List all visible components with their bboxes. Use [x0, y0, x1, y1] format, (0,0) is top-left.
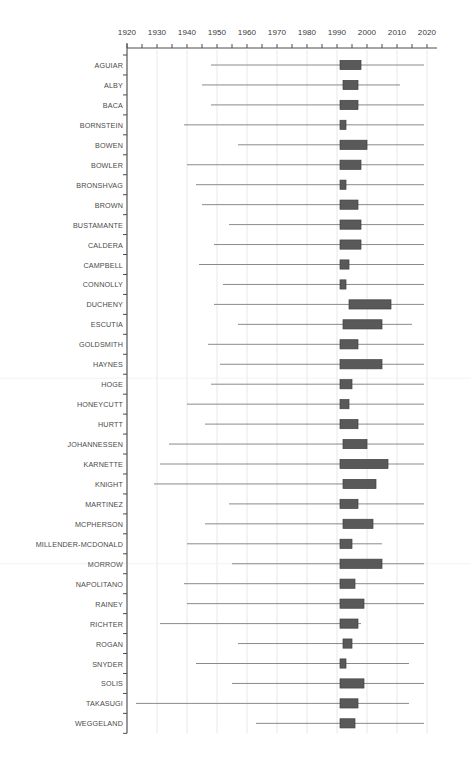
x-axis-tick-label-1950: 1950 [201, 28, 233, 37]
x-axis-tick-label-1930: 1930 [141, 28, 173, 37]
category-label-johannessen: JOHANNESSEN [2, 440, 123, 449]
box-rect[interactable] [340, 539, 352, 548]
box-rect[interactable] [340, 120, 346, 129]
x-axis-tick-label-1960: 1960 [231, 28, 263, 37]
category-label-bowen: BOWEN [2, 141, 123, 150]
box-rect[interactable] [340, 360, 382, 369]
box-rows-group [123, 55, 424, 733]
box-rect[interactable] [340, 280, 346, 289]
box-rect[interactable] [340, 60, 361, 69]
category-label-knight: KNIGHT [2, 480, 123, 489]
box-rect[interactable] [340, 180, 346, 189]
category-label-haynes: HAYNES [2, 360, 123, 369]
box-rect[interactable] [343, 439, 367, 448]
x-axis-tick-label-1970: 1970 [261, 28, 293, 37]
box-rect[interactable] [340, 579, 355, 588]
box-rect[interactable] [343, 479, 376, 488]
box-rect[interactable] [340, 420, 358, 429]
category-label-solis: SOLIS [2, 679, 123, 688]
category-label-escutia: ESCUTIA [2, 320, 123, 329]
category-label-caldera: CALDERA [2, 241, 123, 250]
box-rect[interactable] [340, 679, 364, 688]
x-axis-tick-label-1980: 1980 [291, 28, 323, 37]
box-rect[interactable] [340, 400, 349, 409]
x-axis-tick-label-1920: 1920 [111, 28, 143, 37]
category-label-weggeland: WEGGELAND [2, 719, 123, 728]
category-label-aguiar: AGUIAR [2, 61, 123, 70]
category-label-brown: BROWN [2, 201, 123, 210]
box-rect[interactable] [349, 300, 391, 309]
category-label-campbell: CAMPBELL [2, 261, 123, 270]
box-rect[interactable] [340, 499, 358, 508]
box-rect[interactable] [340, 340, 358, 349]
box-rect[interactable] [340, 160, 361, 169]
box-rect[interactable] [340, 699, 358, 708]
box-rect[interactable] [340, 659, 346, 668]
category-label-millender-mcdonald: MILLENDER-MCDONALD [2, 540, 123, 549]
x-axis-tick-label-2020: 2020 [411, 28, 443, 37]
box-rect[interactable] [340, 619, 358, 628]
box-rect[interactable] [343, 320, 382, 329]
category-label-rainey: RAINEY [2, 600, 123, 609]
x-axis-group [127, 43, 437, 733]
x-axis-tick-label-1990: 1990 [321, 28, 353, 37]
category-label-bronshvag: BRONSHVAG [2, 181, 123, 190]
category-label-martinez: MARTINEZ [2, 500, 123, 509]
box-rect[interactable] [340, 260, 349, 269]
figure-canvas: 1920193019401950196019701980199020002010… [0, 0, 471, 763]
category-label-alby: ALBY [2, 81, 123, 90]
box-rect[interactable] [340, 140, 367, 149]
category-label-ducheny: DUCHENY [2, 300, 123, 309]
box-rect[interactable] [340, 200, 358, 209]
box-rect[interactable] [340, 240, 361, 249]
category-label-bowler: BOWLER [2, 161, 123, 170]
x-axis-tick-label-2000: 2000 [351, 28, 383, 37]
category-label-napolitano: NAPOLITANO [2, 580, 123, 589]
gridlines-group [127, 50, 427, 733]
box-rect[interactable] [340, 559, 382, 568]
category-label-rogan: ROGAN [2, 640, 123, 649]
box-rect[interactable] [340, 220, 361, 229]
x-axis-tick-label-2010: 2010 [381, 28, 413, 37]
box-rect[interactable] [340, 719, 355, 728]
box-rect[interactable] [340, 459, 388, 468]
box-rect[interactable] [340, 380, 352, 389]
box-rect[interactable] [343, 639, 352, 648]
category-label-richter: RICHTER [2, 620, 123, 629]
category-label-bustamante: BUSTAMANTE [2, 221, 123, 230]
category-label-goldsmith: GOLDSMITH [2, 340, 123, 349]
box-rect[interactable] [343, 80, 358, 89]
category-label-baca: BACA [2, 101, 123, 110]
category-label-hoge: HOGE [2, 380, 123, 389]
box-rect[interactable] [343, 519, 373, 528]
category-label-honeycutt: HONEYCUTT [2, 400, 123, 409]
category-label-morrow: MORROW [2, 560, 123, 569]
box-rect[interactable] [340, 599, 364, 608]
category-label-mcpherson: MCPHERSON [2, 520, 123, 529]
category-label-takasugi: TAKASUGI [2, 699, 123, 708]
box-rect[interactable] [340, 100, 358, 109]
x-axis-tick-label-1940: 1940 [171, 28, 203, 37]
category-label-bornstein: BORNSTEIN [2, 121, 123, 130]
category-label-snyder: SNYDER [2, 660, 123, 669]
category-label-connolly: CONNOLLY [2, 280, 123, 289]
category-label-karnette: KARNETTE [2, 460, 123, 469]
category-label-hurtt: HURTT [2, 420, 123, 429]
